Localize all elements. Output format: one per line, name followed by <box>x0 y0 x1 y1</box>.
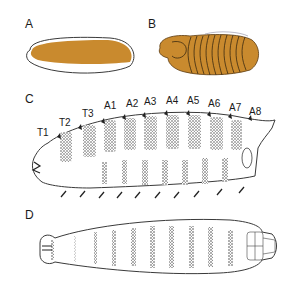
egg-drawing <box>27 37 134 73</box>
figure-drawing <box>0 0 298 295</box>
larva-ventral-drawing <box>40 219 277 273</box>
embryo-drawing <box>159 32 258 75</box>
larva-lateral-drawing <box>32 110 275 198</box>
